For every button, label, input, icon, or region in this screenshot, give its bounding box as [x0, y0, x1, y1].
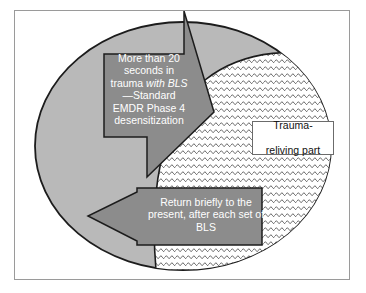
emdr-cycle-figure: Part that is oriented to the safety of t… — [0, 0, 366, 293]
return-line-3: BLS — [128, 221, 284, 233]
callout-line-1: Trauma- — [266, 119, 320, 132]
return-line-2: present, after each set of — [128, 208, 284, 220]
enter-trauma-line-2: seconds in — [97, 64, 201, 76]
return-to-present-arrow-label: Return briefly to the present, after eac… — [128, 196, 284, 233]
enter-trauma-line-3: trauma with BLS — [97, 77, 201, 89]
trauma-reliving-callout-text: Trauma-reliving part — [266, 119, 320, 157]
enter-trauma-arrow-label: More than 20 seconds in trauma with BLS … — [97, 52, 201, 126]
enter-trauma-line-3-italic: with BLS — [146, 77, 187, 89]
callout-line-2: reliving part — [266, 144, 320, 157]
enter-trauma-line-4: —Standard — [97, 89, 201, 101]
enter-trauma-line-1: More than 20 — [97, 52, 201, 64]
enter-trauma-line-5: EMDR Phase 4 — [97, 102, 201, 114]
return-line-1: Return briefly to the — [128, 196, 284, 208]
trauma-reliving-part-callout: Trauma-reliving part — [252, 121, 334, 155]
enter-trauma-line-3-prefix: trauma — [110, 77, 146, 89]
enter-trauma-line-6: desensitization — [97, 114, 201, 126]
